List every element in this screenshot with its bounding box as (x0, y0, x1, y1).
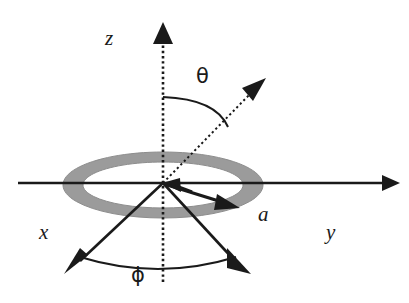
z-axis-label: z (105, 28, 113, 49)
x-axis-label: x (39, 222, 48, 243)
y-axis-label: y (326, 222, 335, 243)
ring-radius-label: a (258, 204, 269, 225)
x-axis-line (80, 183, 163, 261)
x-axis-arrowhead-icon (64, 248, 88, 274)
y-axis-arrowhead-icon (382, 175, 400, 191)
polar-angle-label: θ (196, 66, 209, 87)
radial-ray-arrowhead-icon (242, 78, 266, 101)
phi-arc (80, 257, 236, 269)
diagram-canvas (0, 0, 409, 303)
azimuthal-angle-label: ϕ (131, 265, 145, 286)
spherical-coordinate-diagram: z x y a θ ϕ (0, 0, 409, 303)
theta-arc (163, 97, 228, 127)
z-axis-arrowhead-icon (153, 22, 173, 44)
projection-ray-arrowhead-icon (227, 248, 251, 274)
